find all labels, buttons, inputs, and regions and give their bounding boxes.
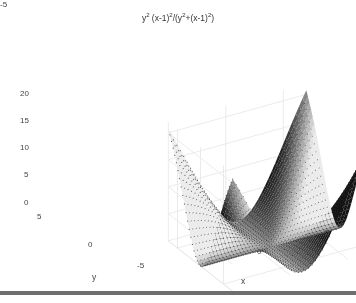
title-part: /(y (173, 13, 182, 23)
z-tick-label: 15 (20, 116, 29, 125)
y-tick-label: 5 (37, 212, 41, 221)
title-part: ) (211, 13, 214, 23)
z-tick-label: 0 (24, 198, 28, 207)
surface-plot-figure: y2 (x-1)2/(y2+(x-1)2) 20 15 10 5 0 5 0 -… (0, 0, 356, 303)
window-bottom-border (0, 291, 356, 295)
y-tick-label: -5 (137, 261, 144, 270)
x-axis-label: x (241, 276, 245, 286)
y-axis-label: y (92, 272, 96, 282)
title-part: +(x-1) (185, 13, 207, 23)
z-tick-label: 20 (20, 89, 29, 98)
x-tick-label: 0 (257, 247, 261, 256)
chart-title: y2 (x-1)2/(y2+(x-1)2) (0, 12, 356, 23)
z-tick-label: 10 (20, 143, 29, 152)
title-part: (x-1) (149, 13, 169, 23)
x-tick-label: 5 (325, 228, 329, 237)
x-tick-label: -5 (0, 0, 7, 9)
y-tick-label: 0 (88, 240, 92, 249)
surface-plot-canvas (0, 0, 356, 303)
z-tick-label: 5 (24, 170, 28, 179)
